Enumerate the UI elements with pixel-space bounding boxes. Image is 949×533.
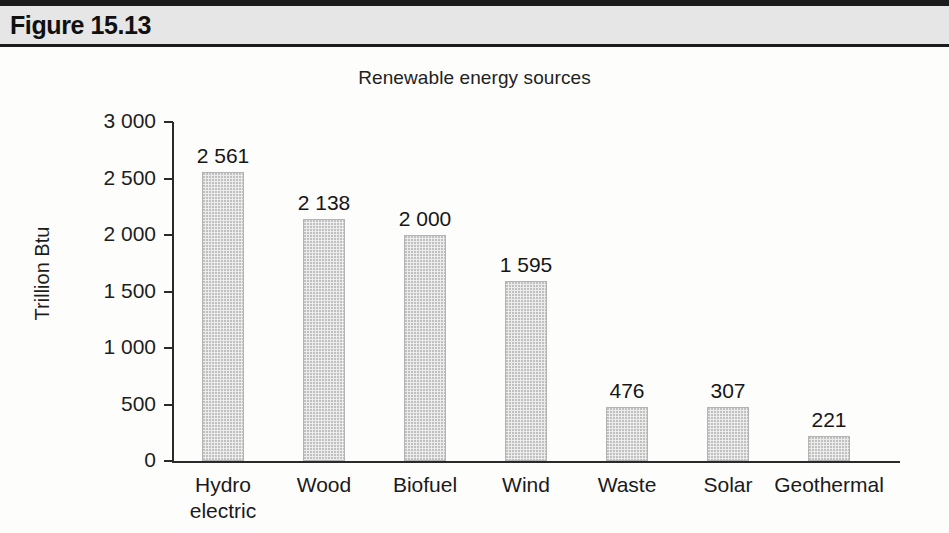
chart-title: Renewable energy sources — [0, 67, 949, 89]
bar — [808, 436, 850, 461]
page-background: Figure 15.13 Renewable energy sources Tr… — [0, 0, 949, 533]
y-axis-line — [172, 122, 174, 463]
y-axis-tick-label: 2 000 — [64, 222, 156, 246]
y-axis-tick — [164, 234, 173, 236]
figure-header: Figure 15.13 — [0, 0, 949, 47]
bar — [303, 219, 345, 461]
y-axis-tick — [164, 178, 173, 180]
y-axis-tick-label: 0 — [64, 448, 156, 472]
y-axis-tick — [164, 121, 173, 123]
y-axis-tick — [164, 347, 173, 349]
bar — [707, 407, 749, 461]
bar-value-label: 2 000 — [365, 207, 485, 231]
bar — [202, 172, 244, 461]
y-axis-tick — [164, 291, 173, 293]
bar-value-label: 1 595 — [466, 253, 586, 277]
bar-value-label: 221 — [769, 408, 889, 432]
y-axis-tick-label: 3 000 — [64, 109, 156, 133]
bar-value-label: 307 — [668, 379, 788, 403]
bar — [505, 281, 547, 461]
bar-value-label: 2 561 — [163, 144, 283, 168]
bar — [404, 235, 446, 461]
y-axis-tick — [164, 404, 173, 406]
bar-chart: Renewable energy sources Trillion Btu 05… — [0, 47, 949, 533]
y-axis-title: Trillion Btu — [31, 194, 54, 354]
y-axis-tick-label: 500 — [64, 392, 156, 416]
y-axis-tick-label: 1 000 — [64, 335, 156, 359]
bar — [606, 407, 648, 461]
y-axis-tick — [164, 460, 173, 462]
figure-number-label: Figure 15.13 — [10, 9, 151, 41]
x-axis-line — [172, 461, 900, 463]
x-axis-category-label: Geothermal — [759, 472, 899, 498]
y-axis-tick-label: 2 500 — [64, 166, 156, 190]
y-axis-tick-label: 1 500 — [64, 279, 156, 303]
